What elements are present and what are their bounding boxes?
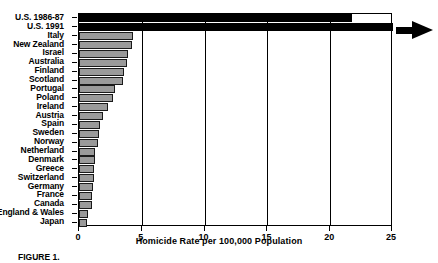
bar: [79, 103, 108, 111]
bar: [79, 165, 94, 173]
bar-row: [79, 94, 393, 102]
bar-row: [79, 77, 393, 85]
bar: [79, 210, 88, 218]
bar: [79, 14, 352, 22]
x-axis-tick: [329, 226, 330, 231]
bar: [79, 139, 98, 147]
bar: [79, 77, 123, 85]
bar: [79, 112, 103, 120]
bar: [79, 174, 94, 182]
bar: [79, 41, 132, 49]
bar-row: [79, 192, 393, 200]
y-axis-tick: [72, 186, 77, 187]
bar: [79, 201, 92, 209]
bar-row: [79, 50, 393, 58]
bar-row: [79, 59, 393, 67]
x-axis-tick: [141, 226, 142, 231]
y-axis-tick: [72, 195, 77, 196]
bar: [79, 183, 93, 191]
bar: [79, 50, 128, 58]
overflow-arrow-icon: [396, 21, 434, 39]
bar: [79, 68, 124, 76]
bar: [79, 156, 95, 164]
y-axis-tick: [72, 88, 77, 89]
bar-row: [79, 156, 393, 164]
figure: U.S. 1986-87U.S. 1991ItalyNew ZealandIsr…: [0, 0, 438, 263]
figure-caption: FIGURE 1.: [18, 252, 422, 263]
y-axis-tick: [72, 71, 77, 72]
bar-row: [79, 23, 393, 31]
y-axis-tick: [72, 177, 77, 178]
bar-row: [79, 103, 393, 111]
plot-area: [78, 13, 392, 226]
y-axis-tick: [72, 97, 77, 98]
y-axis-tick: [72, 53, 77, 54]
bar-row: [79, 148, 393, 156]
bar-row: [79, 121, 393, 129]
bar: [79, 32, 133, 40]
caption-label: FIGURE 1.: [18, 252, 60, 262]
x-axis-tick: [391, 226, 392, 231]
y-axis-tick: [72, 159, 77, 160]
x-axis-tick: [78, 226, 79, 231]
bar-row: [79, 174, 393, 182]
bar: [79, 130, 99, 138]
y-axis-tick: [72, 17, 77, 18]
y-axis-tick: [72, 124, 77, 125]
bar-row: [79, 32, 393, 40]
bar: [79, 121, 100, 129]
y-axis-tick: [72, 142, 77, 143]
y-axis-tick: [72, 80, 77, 81]
y-axis-tick: [72, 213, 77, 214]
y-axis-tick: [72, 106, 77, 107]
bar-row: [79, 165, 393, 173]
y-axis-tick: [72, 133, 77, 134]
y-axis-tick: [72, 168, 77, 169]
y-axis-tick: [72, 151, 77, 152]
x-axis-tick: [204, 226, 205, 231]
bar: [79, 59, 127, 67]
bar-row: [79, 201, 393, 209]
bar: [79, 23, 393, 31]
y-axis-tick: [72, 222, 77, 223]
y-axis-tick: [72, 26, 77, 27]
x-axis-title: Homicide Rate per 100,000 Population: [0, 236, 438, 246]
y-axis-label: Japan: [40, 217, 64, 226]
arrow-head: [412, 21, 433, 39]
y-axis-tick: [72, 62, 77, 63]
bar: [79, 94, 113, 102]
y-axis-tick: [72, 35, 77, 36]
bar-row: [79, 183, 393, 191]
bar-row: [79, 130, 393, 138]
bar-row: [79, 41, 393, 49]
y-axis-labels: U.S. 1986-87U.S. 1991ItalyNew ZealandIsr…: [0, 13, 72, 226]
bar-row: [79, 139, 393, 147]
bar-row: [79, 85, 393, 93]
bar-row: [79, 68, 393, 76]
bar: [79, 148, 95, 156]
bar: [79, 192, 92, 200]
x-axis-tick: [266, 226, 267, 231]
y-axis-tick: [72, 115, 77, 116]
y-axis-tick: [72, 44, 77, 45]
bar: [79, 85, 115, 93]
bar-row: [79, 210, 393, 218]
bar-row: [79, 14, 393, 22]
y-axis-tick: [72, 204, 77, 205]
bar-row: [79, 112, 393, 120]
